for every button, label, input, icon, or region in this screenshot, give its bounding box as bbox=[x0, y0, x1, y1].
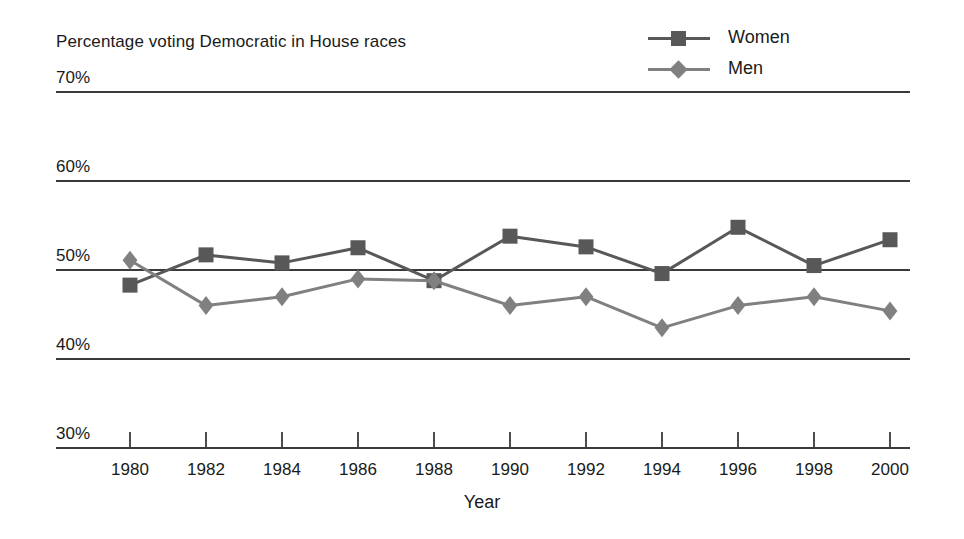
x-axis-label-1998: 1998 bbox=[774, 460, 854, 480]
data-point-women-2000 bbox=[883, 232, 898, 247]
x-axis-label-1990: 1990 bbox=[470, 460, 550, 480]
data-point-women-1986 bbox=[351, 240, 366, 255]
data-point-women-1994 bbox=[655, 266, 670, 281]
data-point-men-1996 bbox=[731, 296, 746, 315]
data-point-men-1986 bbox=[351, 269, 366, 288]
x-axis-label-2000: 2000 bbox=[850, 460, 930, 480]
data-point-men-2000 bbox=[883, 301, 898, 320]
data-point-men-1992 bbox=[579, 287, 594, 306]
y-axis-label-30: 30% bbox=[56, 424, 90, 444]
data-point-women-1982 bbox=[199, 247, 214, 262]
data-point-women-1980 bbox=[123, 278, 138, 293]
data-point-women-1998 bbox=[807, 258, 822, 273]
x-axis-label-1996: 1996 bbox=[698, 460, 778, 480]
chart-container: Percentage voting Democratic in House ra… bbox=[0, 0, 964, 539]
y-axis-label-70: 70% bbox=[56, 68, 90, 88]
y-axis-label-60: 60% bbox=[56, 157, 90, 177]
data-point-men-1980 bbox=[123, 251, 138, 270]
data-point-men-1984 bbox=[275, 287, 290, 306]
x-axis-label-1982: 1982 bbox=[166, 460, 246, 480]
x-axis-label-1992: 1992 bbox=[546, 460, 626, 480]
data-point-men-1982 bbox=[199, 296, 214, 315]
x-axis-label-1984: 1984 bbox=[242, 460, 322, 480]
data-point-men-1990 bbox=[503, 296, 518, 315]
plot-area bbox=[0, 0, 964, 539]
data-point-men-1994 bbox=[655, 318, 670, 337]
data-point-women-1990 bbox=[503, 229, 518, 244]
data-point-men-1998 bbox=[807, 287, 822, 306]
x-axis-label-1980: 1980 bbox=[90, 460, 170, 480]
x-axis-label-1994: 1994 bbox=[622, 460, 702, 480]
data-point-women-1996 bbox=[731, 220, 746, 235]
x-axis-label-1988: 1988 bbox=[394, 460, 474, 480]
data-point-women-1984 bbox=[275, 255, 290, 270]
data-point-women-1992 bbox=[579, 239, 594, 254]
x-axis-label-1986: 1986 bbox=[318, 460, 398, 480]
x-axis-title: Year bbox=[0, 492, 964, 513]
y-axis-label-40: 40% bbox=[56, 335, 90, 355]
y-axis-label-50: 50% bbox=[56, 246, 90, 266]
